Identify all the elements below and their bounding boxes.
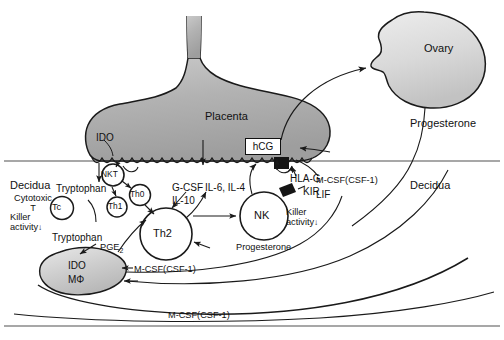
cell-label-th1: Th1: [108, 202, 122, 211]
cell-label-nk: NK: [254, 210, 269, 222]
cytotoxic-t-label: Cytotoxic T: [8, 194, 58, 213]
macrophage-label: MΦ: [68, 275, 84, 286]
decidua-label-right: Decidua: [410, 180, 450, 192]
decidua-label-left: Decidua: [10, 180, 50, 192]
cell-label-tc: Tc: [52, 203, 61, 213]
tryptophan-lower-label: Tryptophan: [52, 233, 102, 244]
gcsf-label: G-CSF: [172, 183, 203, 194]
ovary-organ: [371, 12, 485, 108]
macrophage-ido-label: IDO: [68, 261, 86, 272]
cell-label-th0: Th0: [130, 190, 144, 199]
hcg-box: hCG: [245, 138, 281, 155]
down-arrow-icon: ↓: [38, 223, 42, 232]
pge2-text: PGE: [100, 242, 119, 252]
pge2-subscript: 2: [119, 247, 123, 254]
placenta-organ: [86, 16, 331, 163]
il10-label: IL-10: [172, 196, 195, 207]
lif-label: LIF: [316, 190, 330, 201]
killer-activity-nk-text: Killer activity: [286, 207, 314, 227]
killer-activity-left-label: Killer activity↓: [10, 213, 42, 232]
down-arrow-icon-nk: ↓: [314, 218, 318, 227]
ovary-label: Ovary: [424, 43, 453, 55]
cell-label-th2: Th2: [153, 228, 172, 240]
figure-canvas: Placenta Ovary IDO hCG Decidua Decidua C…: [0, 0, 504, 340]
cell-label-nkt: NKT: [101, 170, 118, 179]
tryptophan-upper-label: Tryptophan: [56, 184, 106, 195]
placenta-label: Placenta: [205, 111, 248, 123]
mcsf-mid-label: M-CSF(CSF-1): [134, 265, 196, 275]
killer-activity-left-text: Killer activity: [10, 212, 38, 232]
placenta-ido-label: IDO: [96, 133, 114, 144]
pge2-label: PGE2: [100, 243, 123, 254]
progesterone-ovary-label: Progesterone: [410, 118, 476, 130]
mcsf-upper-label: M-CSF(CSF-1): [316, 176, 378, 186]
killer-activity-nk-label: Killer activity↓: [286, 208, 318, 227]
il6-il4-label: IL-6, IL-4: [205, 183, 245, 194]
progesterone-nk-label: Progesterone: [236, 243, 291, 253]
mcsf-bottom-label: M-CSF(CSF-1): [168, 311, 230, 321]
